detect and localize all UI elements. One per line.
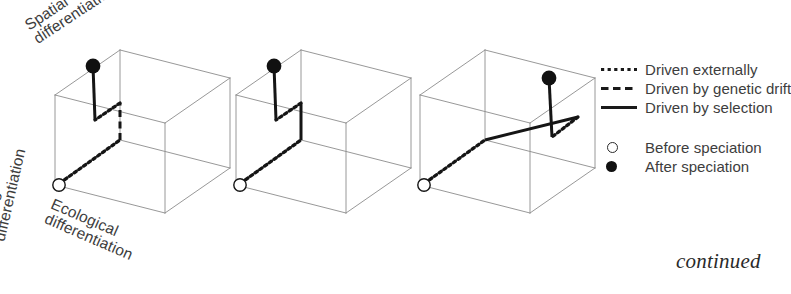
trajectory-3	[425, 78, 578, 183]
legend-row-line-2: Driven by selection	[600, 98, 785, 117]
filled-circle-icon	[600, 157, 638, 176]
marker-before-speciation-3	[418, 179, 430, 191]
trajectory-segment-dotted-0	[425, 140, 485, 183]
legend-row-line-0: Driven externally	[600, 60, 785, 79]
cube-wireframe-2	[236, 50, 411, 213]
legend-row-marker-1: After speciation	[600, 157, 785, 176]
cube-wireframe-1	[55, 50, 230, 213]
trajectory-segment-dotted-2	[276, 103, 301, 120]
trajectory-segment-dotted-0	[60, 140, 120, 183]
speciation-markers-layer	[53, 59, 557, 192]
legend-line-sample-solid	[600, 98, 638, 117]
legend-label-driven-externally: Driven externally	[645, 61, 758, 78]
marker-before-speciation-1	[53, 179, 65, 191]
trajectory-2	[241, 66, 301, 183]
legend-line-sample-dashed	[600, 79, 638, 98]
legend-label-after-speciation: After speciation	[645, 158, 749, 175]
trajectory-segment-solid-3	[93, 66, 95, 120]
marker-before-speciation-2	[234, 179, 246, 191]
trajectory-1	[60, 66, 120, 183]
legend-spacer	[600, 117, 785, 138]
legend-label-driven-by-selection: Driven by selection	[645, 99, 773, 116]
open-circle-icon	[600, 138, 638, 157]
legend: Driven externally Driven by genetic drif…	[600, 60, 785, 176]
legend-row-line-1: Driven by genetic drift	[600, 79, 785, 98]
trajectory-segment-solid-3	[549, 78, 552, 137]
trajectory-paths-layer	[60, 66, 578, 183]
marker-after-speciation-3	[542, 71, 557, 86]
legend-row-marker-0: Before speciation	[600, 138, 785, 157]
marker-after-speciation-1	[86, 59, 101, 74]
continued-note: continued	[676, 249, 761, 274]
marker-after-speciation-2	[267, 59, 282, 74]
trajectory-segment-dotted-0	[241, 140, 301, 183]
cube-wireframe-3	[420, 50, 595, 213]
legend-label-before-speciation: Before speciation	[645, 139, 762, 156]
trajectory-segment-solid-3	[274, 66, 276, 120]
trajectory-segment-dotted-2	[95, 103, 120, 120]
legend-label-driven-by-genetic-drift: Driven by genetic drift	[645, 80, 791, 97]
legend-line-sample-dotted	[600, 60, 638, 79]
